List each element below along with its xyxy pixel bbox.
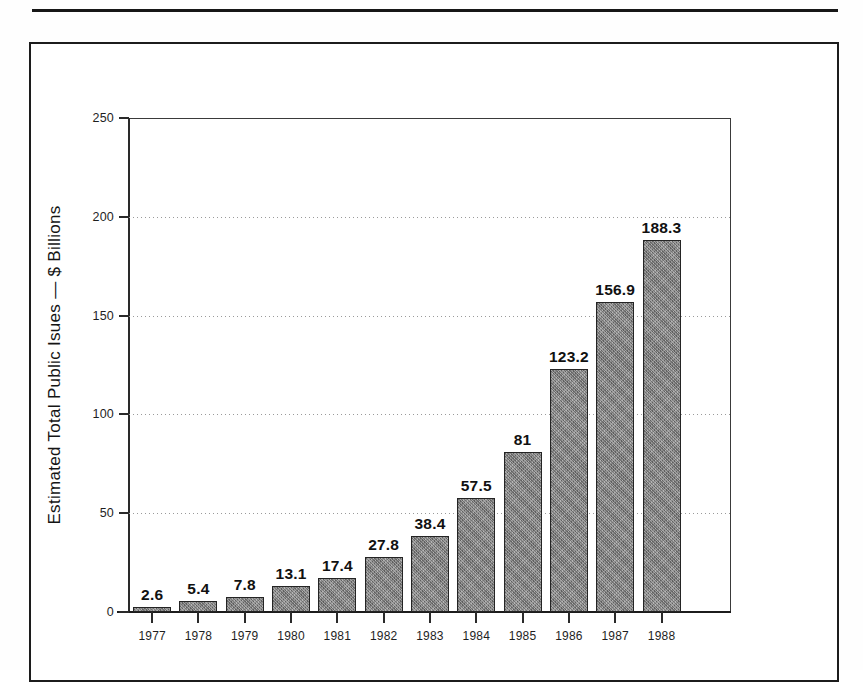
x-axis-tick-label: 1988 bbox=[648, 629, 676, 643]
x-axis-tick-label: 1987 bbox=[601, 629, 629, 643]
bar-value-label: 38.4 bbox=[415, 515, 446, 533]
bar-value-label: 13.1 bbox=[276, 565, 307, 583]
x-axis-tick-mark bbox=[522, 612, 524, 623]
page-top-rule bbox=[32, 9, 838, 12]
bar-slot: 57.51984 bbox=[453, 118, 499, 612]
x-axis-tick-mark bbox=[244, 612, 246, 623]
y-axis-tick-label: 200 bbox=[93, 210, 114, 224]
bar[interactable]: 27.8 bbox=[365, 557, 403, 612]
x-axis-tick-label: 1978 bbox=[185, 629, 213, 643]
bar[interactable]: 81 bbox=[504, 452, 542, 612]
x-axis-tick-label: 1980 bbox=[277, 629, 305, 643]
y-axis-tick-label: 100 bbox=[93, 407, 114, 421]
bar-slot: 38.41983 bbox=[407, 118, 453, 612]
x-axis-tick-mark bbox=[290, 612, 292, 623]
bar[interactable]: 17.4 bbox=[318, 578, 356, 612]
y-axis-tick-mark bbox=[119, 315, 129, 317]
bar-group: 2.619775.419787.8197913.1198017.4198127.… bbox=[129, 118, 731, 612]
x-axis-tick-mark bbox=[429, 612, 431, 623]
y-axis-tick-mark bbox=[119, 117, 129, 119]
bar[interactable]: 57.5 bbox=[457, 498, 495, 612]
y-axis-tick-label: 50 bbox=[100, 506, 114, 520]
bar-slot: 5.41978 bbox=[175, 118, 221, 612]
bar-value-label: 5.4 bbox=[187, 580, 209, 598]
bar-value-label: 57.5 bbox=[461, 477, 492, 495]
bar-value-label: 188.3 bbox=[642, 219, 682, 237]
x-axis-tick-label: 1984 bbox=[463, 629, 491, 643]
x-axis-tick-label: 1983 bbox=[416, 629, 444, 643]
y-axis-tick-label: 250 bbox=[93, 111, 114, 125]
bar-value-label: 7.8 bbox=[234, 576, 256, 594]
bar[interactable]: 7.8 bbox=[226, 597, 264, 612]
x-axis-tick-mark bbox=[383, 612, 385, 623]
x-axis-tick-label: 1977 bbox=[138, 629, 166, 643]
bar-value-label: 123.2 bbox=[549, 348, 589, 366]
y-axis-tick-mark bbox=[119, 413, 129, 415]
y-axis-tick-mark bbox=[119, 512, 129, 514]
x-axis-tick-label: 1979 bbox=[231, 629, 259, 643]
bar[interactable]: 123.2 bbox=[550, 369, 588, 612]
x-axis-tick-mark bbox=[568, 612, 570, 623]
x-axis-tick-mark bbox=[197, 612, 199, 623]
bar-value-label: 81 bbox=[514, 431, 532, 449]
y-axis-tick-label: 150 bbox=[93, 309, 114, 323]
bar-value-label: 2.6 bbox=[141, 586, 163, 604]
bar-slot: 811985 bbox=[499, 118, 545, 612]
x-axis-tick-mark bbox=[661, 612, 663, 623]
bar-slot: 17.41981 bbox=[314, 118, 360, 612]
bar-slot: 188.31988 bbox=[638, 118, 684, 612]
y-axis-title: Estimated Total Public Isues — $ Billion… bbox=[42, 118, 68, 612]
x-axis-tick-label: 1985 bbox=[509, 629, 537, 643]
bar-slot: 7.81979 bbox=[222, 118, 268, 612]
x-axis-tick-label: 1981 bbox=[324, 629, 352, 643]
bar-slot: 27.81982 bbox=[361, 118, 407, 612]
bar-value-label: 27.8 bbox=[368, 536, 399, 554]
bar[interactable]: 5.4 bbox=[179, 601, 217, 612]
bar-slot: 123.21986 bbox=[546, 118, 592, 612]
x-axis-tick-mark bbox=[614, 612, 616, 623]
bar-slot: 13.11980 bbox=[268, 118, 314, 612]
bar-value-label: 156.9 bbox=[595, 281, 635, 299]
x-axis-tick-mark bbox=[336, 612, 338, 623]
bar-value-label: 17.4 bbox=[322, 557, 353, 575]
bar-slot: 156.91987 bbox=[592, 118, 638, 612]
x-axis-tick-mark bbox=[151, 612, 153, 623]
bar[interactable]: 13.1 bbox=[272, 586, 310, 612]
y-axis-tick-mark bbox=[119, 216, 129, 218]
y-axis-tick-label: 0 bbox=[107, 605, 114, 619]
bar[interactable]: 188.3 bbox=[643, 240, 681, 612]
bar[interactable]: 156.9 bbox=[596, 302, 634, 612]
bar[interactable]: 38.4 bbox=[411, 536, 449, 612]
bar-slot: 2.61977 bbox=[129, 118, 175, 612]
x-axis-tick-label: 1982 bbox=[370, 629, 398, 643]
x-axis-tick-label: 1986 bbox=[555, 629, 583, 643]
bar-chart: 050100150200250 2.619775.419787.8197913.… bbox=[129, 118, 731, 612]
x-axis-tick-mark bbox=[475, 612, 477, 623]
y-axis-tick-mark bbox=[119, 611, 129, 613]
